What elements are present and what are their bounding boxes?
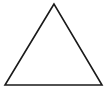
- triangle-diagram: [0, 0, 105, 89]
- triangle-shape: [5, 4, 102, 85]
